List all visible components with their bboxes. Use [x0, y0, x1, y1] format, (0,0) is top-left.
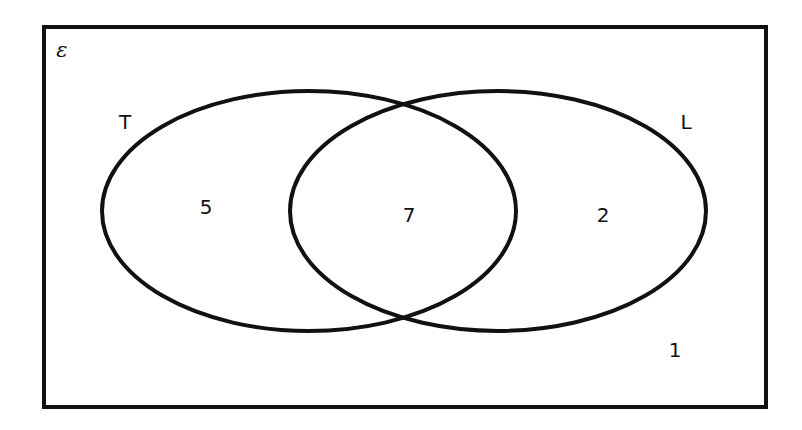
set-l-ellipse	[290, 91, 706, 331]
set-t-ellipse	[102, 91, 516, 331]
set-l-label: L	[680, 112, 691, 132]
region-t-only-value: 5	[200, 197, 213, 217]
region-neither-value: 1	[669, 340, 682, 360]
universal-set-label: ε	[56, 40, 67, 61]
region-intersection-value: 7	[403, 205, 416, 225]
region-l-only-value: 2	[597, 205, 610, 225]
venn-diagram	[0, 0, 802, 430]
set-t-label: T	[119, 112, 131, 132]
